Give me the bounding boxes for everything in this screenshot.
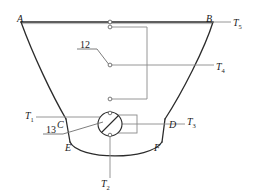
- contact-lower-icon[interactable]: [108, 97, 112, 101]
- t4-subscript: 4: [222, 67, 225, 74]
- t1-subscript: 1: [31, 116, 34, 123]
- contact-upper-b-icon[interactable]: [108, 25, 112, 29]
- callout-13-leader-line: [63, 122, 103, 134]
- right-wall-path: [165, 22, 213, 119]
- contact-upper-a-icon[interactable]: [108, 20, 112, 24]
- vertex-label-b: B: [206, 14, 212, 24]
- switch-wiring: [112, 27, 147, 99]
- callout-label-12: 12: [80, 40, 90, 50]
- left-neck-line: [66, 119, 70, 142]
- vessel-outline: [21, 22, 213, 156]
- schematic-drawing: [0, 0, 253, 195]
- contact-points: [108, 20, 112, 101]
- vertex-label-d: D: [169, 120, 176, 130]
- switch-wire-path: [112, 27, 147, 99]
- vertex-label-c: C: [57, 120, 64, 130]
- vertex-label-f: F: [154, 143, 160, 153]
- temperature-label-t5: T5: [233, 18, 242, 31]
- callout-label-13: 13: [46, 125, 56, 135]
- figure-canvas: A B C D E F T5 T4 T1 T3 T2 12 13: [0, 0, 253, 195]
- contact-valve-bottom-icon[interactable]: [108, 133, 112, 137]
- t2-subscript: 2: [107, 184, 110, 191]
- temperature-label-t1: T1: [25, 111, 34, 124]
- t3-subscript: 3: [193, 122, 196, 129]
- temperature-label-t4: T4: [216, 62, 225, 75]
- temperature-label-t3: T3: [187, 117, 196, 130]
- right-neck-line: [162, 119, 165, 142]
- bottom-bowl-path: [70, 142, 162, 156]
- contact-valve-top-icon[interactable]: [108, 111, 112, 115]
- t5-subscript: 5: [239, 23, 242, 30]
- vertex-label-a: A: [17, 14, 23, 24]
- vertex-label-e: E: [65, 143, 71, 153]
- left-wall-path: [21, 22, 66, 119]
- temperature-label-t2: T2: [101, 179, 110, 192]
- callout-12-leader-line: [97, 49, 109, 64]
